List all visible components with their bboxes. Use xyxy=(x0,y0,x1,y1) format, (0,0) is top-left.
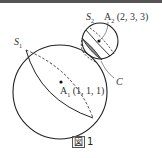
sphere-s1-back-curve xyxy=(26,50,93,118)
label-s2: S2 xyxy=(86,12,94,26)
caption-box: 図 xyxy=(72,136,85,148)
label-s1: S1 xyxy=(14,37,22,51)
leader-c xyxy=(101,61,114,78)
caption-number: 1 xyxy=(87,136,93,147)
label-a1: A1 (1, 1, 1) xyxy=(60,86,104,100)
label-c: C xyxy=(116,77,123,87)
sphere-s1-front-curve xyxy=(26,50,93,118)
figure-caption: 図1 xyxy=(72,136,93,148)
label-a2: A2 (2, 3, 3) xyxy=(104,12,148,26)
sphere-s2-front-curve xyxy=(86,30,110,56)
center-a1-dot xyxy=(59,80,62,83)
